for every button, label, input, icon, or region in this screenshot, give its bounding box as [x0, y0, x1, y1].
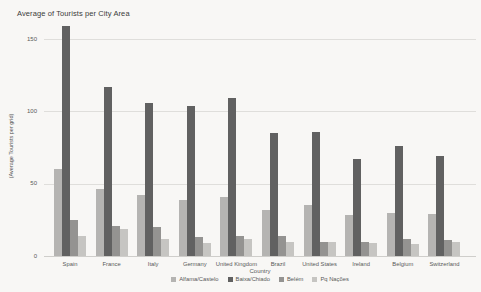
bar	[112, 226, 120, 256]
bar	[270, 133, 278, 256]
bar	[120, 229, 128, 256]
bar	[444, 240, 452, 256]
bar	[361, 242, 369, 256]
gridline	[44, 39, 476, 40]
bar	[96, 189, 104, 256]
bar	[286, 242, 294, 256]
x-category-label: Switzerland	[420, 261, 468, 267]
bar	[153, 227, 161, 256]
bar	[220, 197, 228, 256]
plot-area: 050100150SpainFranceItalyGermanyUnited K…	[0, 0, 481, 292]
legend-item: Belém	[279, 276, 303, 282]
bar	[452, 242, 460, 256]
bar	[387, 213, 395, 256]
bar	[278, 236, 286, 256]
bar	[395, 146, 403, 256]
bar	[104, 87, 112, 256]
bar	[262, 210, 270, 256]
y-tick-label: 0	[0, 253, 37, 260]
gridline	[44, 256, 476, 257]
bar	[195, 237, 203, 256]
bar	[312, 132, 320, 256]
legend-label: Pq Nações	[320, 276, 348, 282]
bar	[179, 200, 187, 256]
bar	[62, 26, 70, 256]
bar	[187, 106, 195, 256]
legend-item: Pq Nações	[312, 276, 348, 282]
bar	[345, 215, 353, 256]
legend-label: Alfama/Castelo	[179, 276, 218, 282]
bar	[411, 244, 419, 256]
bar	[304, 205, 312, 256]
bar	[244, 239, 252, 256]
x-axis-title: Country	[44, 268, 476, 274]
bar	[436, 156, 444, 256]
bar	[328, 242, 336, 256]
bar	[78, 236, 86, 256]
chart-screenshot: Average of Tourists per City Area (Avera…	[0, 0, 481, 292]
bar	[54, 169, 62, 256]
legend: Alfama/CasteloBaixa/ChiadoBelémPq Nações	[44, 276, 476, 282]
legend-swatch	[171, 277, 176, 282]
legend-item: Alfama/Castelo	[171, 276, 218, 282]
bar	[369, 243, 377, 256]
bar	[353, 159, 361, 256]
bar	[320, 242, 328, 256]
legend-item: Baixa/Chiado	[228, 276, 270, 282]
y-tick-label: 50	[0, 180, 37, 187]
bar	[236, 236, 244, 256]
legend-swatch	[279, 277, 284, 282]
bar	[228, 98, 236, 256]
legend-label: Belém	[287, 276, 303, 282]
y-tick-label: 100	[0, 108, 37, 115]
legend-swatch	[312, 277, 317, 282]
bar	[70, 220, 78, 256]
bar	[145, 103, 153, 256]
legend-swatch	[228, 277, 233, 282]
bar	[403, 239, 411, 256]
bar	[137, 195, 145, 256]
bar	[203, 243, 211, 256]
y-tick-label: 150	[0, 36, 37, 43]
bar	[161, 239, 169, 256]
bar	[428, 214, 436, 256]
legend-label: Baixa/Chiado	[236, 276, 270, 282]
